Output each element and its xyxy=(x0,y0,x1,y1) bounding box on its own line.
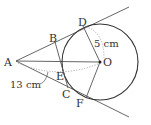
line-AO xyxy=(16,61,100,62)
geometry-diagram: A B D O E C F 5 cm 13 cm xyxy=(0,0,151,125)
label-C: C xyxy=(62,88,70,101)
label-B: B xyxy=(49,32,57,45)
tangent-line-AD xyxy=(16,7,129,61)
radius-OF xyxy=(86,62,100,98)
radius-measure-label: 5 cm xyxy=(94,38,119,49)
label-D: D xyxy=(78,16,87,29)
ao-measure-label: 13 cm xyxy=(10,79,42,90)
label-O: O xyxy=(103,56,112,69)
label-A: A xyxy=(3,56,13,69)
center-point-O xyxy=(99,61,102,64)
label-E: E xyxy=(56,70,64,83)
label-F: F xyxy=(76,97,84,110)
